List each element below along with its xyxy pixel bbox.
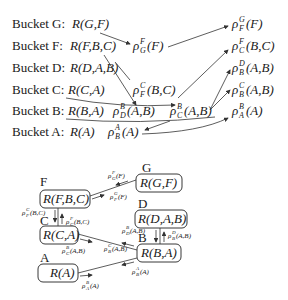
svg-text:B: B [86, 280, 89, 285]
svg-text:ρ: ρ [132, 82, 139, 97]
node-f-letter: F [40, 174, 47, 189]
svg-text:ρ: ρ [107, 124, 114, 139]
edge-label-B-to-C: ρCB(A,B) [103, 243, 128, 254]
svg-text:ρ: ρ [231, 82, 238, 97]
bucket-elimination-figure: Bucket G: R(G,F) Bucket F: R(F,B,C) Buck… [0, 0, 288, 300]
svg-text:(B,C): (B,C) [30, 209, 46, 217]
svg-text:(A): (A) [246, 103, 263, 118]
bucket-b-relation: R(B,A) [67, 103, 104, 118]
svg-text:B: B [239, 68, 244, 77]
arrow-icon [80, 275, 92, 276]
node-d-relation: R(D,A,B) [137, 211, 186, 226]
out-rho-B-C: ρCB(A,B) [231, 81, 274, 99]
svg-text:(F): (F) [118, 193, 128, 201]
node-a-relation: R(A) [49, 265, 75, 280]
edge-a-b [78, 258, 137, 273]
bucket-d-label: Bucket D: [12, 60, 65, 75]
svg-text:B: B [108, 249, 111, 254]
bucket-f-relation: R(F,B,C) [69, 38, 116, 53]
bucket-c-label: Bucket C: [12, 82, 64, 97]
arrow-icon [80, 239, 92, 242]
svg-text:(F): (F) [147, 38, 164, 53]
svg-text:(A): (A) [90, 282, 100, 290]
svg-text:F: F [238, 37, 244, 46]
node-c-relation: R(C,A) [42, 227, 79, 242]
msg-rho-F-C: ρCF(B,C) [132, 81, 176, 99]
bucket-g-label: Bucket G: [12, 16, 65, 31]
msg-rho-C-B: ρBC(A,B) [169, 102, 212, 120]
arrow-icon [168, 26, 228, 47]
svg-text:(A): (A) [140, 268, 150, 276]
svg-text:F: F [139, 37, 145, 46]
svg-text:(A,B): (A,B) [130, 227, 146, 235]
svg-text:C: C [239, 81, 245, 90]
bucket-b-label: Bucket B: [12, 103, 64, 118]
svg-text:ρ: ρ [231, 38, 238, 53]
bucket-diagram: Bucket G: R(G,F) Bucket F: R(F,B,C) Buck… [12, 15, 275, 141]
svg-text:(A,B): (A,B) [246, 60, 274, 75]
bucket-g-relation: R(G,F) [71, 16, 109, 31]
edge-label-A-to-B: ρBA(A) [81, 280, 100, 291]
svg-text:ρ: ρ [112, 103, 119, 118]
edge-label-F-to-C: ρCF(B,C) [21, 207, 46, 218]
node-a-letter: A [40, 250, 50, 265]
arrow-icon [178, 50, 228, 98]
bucket-a-relation: R(A) [69, 124, 95, 139]
arrow-icon [210, 90, 230, 110]
svg-text:C: C [177, 111, 183, 120]
svg-text:ρ: ρ [231, 60, 238, 75]
arrow-icon [104, 55, 136, 105]
svg-text:(A,B): (A,B) [184, 103, 212, 118]
bucket-c-relation: R(C,A) [67, 82, 104, 97]
svg-text:F: F [139, 90, 145, 99]
svg-text:B: B [172, 236, 175, 241]
svg-text:B: B [126, 225, 129, 230]
svg-text:G: G [140, 46, 146, 55]
svg-text:C: C [239, 46, 245, 55]
out-rho-C-F: ρFC(B,C) [231, 37, 275, 55]
svg-text:B: B [239, 102, 244, 111]
svg-text:ρ: ρ [231, 16, 238, 31]
svg-text:ρ: ρ [132, 38, 139, 53]
arrow-icon [92, 195, 104, 199]
svg-text:B: B [66, 245, 69, 250]
arrow-icon [142, 118, 228, 134]
edge-label-C-to-B: ρBC(A,B) [61, 245, 86, 256]
node-d-letter: D [138, 196, 147, 211]
out-rho-B-D: ρDB(A,B) [231, 59, 274, 77]
msg-rho-G-F: ρFG(F) [132, 37, 164, 55]
svg-text:B: B [177, 102, 182, 111]
edge-label-B-to-D: ρDB(A,B) [167, 230, 192, 241]
svg-text:B: B [136, 272, 139, 277]
arrow-icon [210, 70, 230, 110]
svg-text:A: A [238, 111, 244, 120]
bucket-d-relation: R(D,A,B) [69, 60, 118, 75]
svg-text:B: B [120, 102, 125, 111]
svg-text:(B,C): (B,C) [147, 82, 176, 97]
svg-text:D: D [238, 59, 245, 68]
arrow-icon [122, 262, 134, 265]
svg-text:B: B [239, 90, 244, 99]
svg-text:ρ: ρ [231, 103, 238, 118]
edge-label-B-to-A: ρAB(A) [131, 266, 150, 277]
svg-text:(A,B): (A,B) [112, 245, 128, 253]
node-f-relation: R(F,B,C) [42, 191, 89, 206]
node-g-relation: R(G,F) [139, 175, 177, 190]
svg-text:B: B [115, 132, 120, 141]
svg-text:(A,B): (A,B) [176, 232, 192, 240]
svg-text:A: A [114, 123, 120, 132]
bucket-a-label: Bucket A: [12, 124, 64, 139]
svg-text:(A): (A) [122, 124, 139, 139]
svg-text:F: F [238, 24, 244, 33]
edge-label-F-to-G: ρGF(F) [109, 191, 128, 202]
svg-text:(A,B): (A,B) [246, 82, 274, 97]
arrow-icon [145, 121, 170, 130]
bucket-f-label: Bucket F: [12, 38, 63, 53]
svg-text:D: D [119, 111, 126, 120]
node-g-letter: G [142, 160, 151, 175]
out-rho-A-B: ρBA(A) [231, 102, 263, 120]
svg-text:(A,B): (A,B) [70, 247, 86, 255]
svg-text:(F): (F) [116, 172, 126, 180]
svg-text:G: G [239, 15, 245, 24]
svg-text:(B,C): (B,C) [74, 218, 90, 226]
